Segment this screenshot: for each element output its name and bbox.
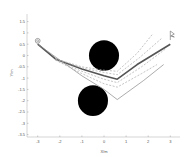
y-tick-label: -3 bbox=[21, 121, 25, 126]
y-tick-label: -3.5 bbox=[18, 132, 26, 137]
y-tick-label: -1.5 bbox=[18, 87, 26, 92]
x-tick-label: 3 bbox=[169, 139, 172, 144]
trajectory-plot: -3-2-101231.510.50-0.5-1-1.5-2-2.5-3-3.5… bbox=[0, 0, 191, 157]
y-axis-label: Y/m bbox=[9, 69, 14, 77]
y-tick-label: 1.5 bbox=[19, 19, 25, 24]
x-tick-label: -2 bbox=[58, 139, 62, 144]
goal-flag-icon bbox=[170, 31, 174, 40]
y-tick-label: 1 bbox=[23, 30, 26, 35]
y-tick-label: -2.5 bbox=[18, 109, 26, 114]
y-tick-label: -2 bbox=[21, 98, 25, 103]
x-tick-label: -1 bbox=[80, 139, 84, 144]
axes: -3-2-101231.510.50-0.5-1-1.5-2-2.5-3-3.5 bbox=[18, 14, 180, 144]
start-marker-icon bbox=[35, 38, 40, 43]
start-marker-inner-icon bbox=[37, 40, 39, 42]
x-tick-label: 0 bbox=[103, 139, 106, 144]
x-tick-label: 2 bbox=[147, 139, 150, 144]
y-tick-label: -1 bbox=[21, 76, 25, 81]
y-tick-label: -0.5 bbox=[18, 64, 26, 69]
x-tick-label: -3 bbox=[36, 139, 40, 144]
y-tick-label: 0 bbox=[23, 53, 26, 58]
x-axis-label: X/m bbox=[100, 149, 108, 154]
y-tick-label: 0.5 bbox=[19, 42, 25, 47]
obstacle-circle bbox=[78, 85, 108, 116]
x-tick-label: 1 bbox=[125, 139, 128, 144]
obstacle-circle bbox=[89, 40, 119, 71]
